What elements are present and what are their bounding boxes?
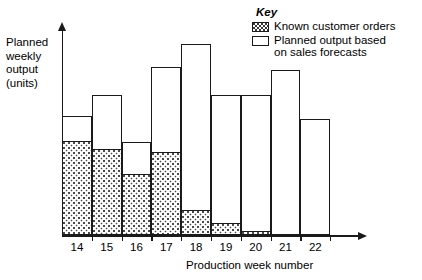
bar-total-week-18 (181, 44, 211, 235)
legend-label-known: Known customer orders (274, 20, 395, 33)
bar-known-week-15 (92, 149, 122, 235)
x-axis-tick-label-14: 14 (62, 241, 92, 253)
legend-label-planned-line-2: on sales forecasts (274, 46, 386, 59)
legend-label-known-line-1: Known customer orders (274, 20, 395, 33)
bar-known-week-18 (181, 210, 211, 235)
x-axis-tick-label-15: 15 (92, 241, 122, 253)
bar-known-week-16 (122, 174, 152, 235)
bar-total-week-19 (211, 95, 241, 235)
x-axis-title: Production week number (186, 259, 313, 271)
legend-label-planned: Planned output based on sales forecasts (274, 34, 386, 59)
bar-known-week-19 (211, 223, 241, 235)
x-axis-tick-label-22: 22 (300, 241, 330, 253)
legend: Key Known customer orders Planned output… (252, 6, 420, 60)
x-axis-tick-label-19: 19 (211, 241, 241, 253)
bar-total-week-20 (241, 95, 271, 235)
bar-known-week-14 (62, 141, 92, 235)
legend-label-planned-line-1: Planned output based (274, 34, 386, 47)
bar-total-week-22 (300, 119, 330, 235)
legend-item-planned-output: Planned output based on sales forecasts (252, 34, 420, 59)
bar-known-week-20 (241, 231, 271, 235)
bar-known-week-17 (151, 152, 181, 235)
bar-chart: Planned weekly output (units) Production… (0, 0, 422, 280)
legend-title: Key (256, 6, 420, 18)
legend-item-known-customer-orders: Known customer orders (252, 20, 420, 33)
bar-total-week-21 (271, 70, 301, 235)
x-axis-tick-label-21: 21 (271, 241, 301, 253)
x-axis-tick-22 (330, 236, 331, 241)
x-axis-tick-label-20: 20 (241, 241, 271, 253)
legend-swatch-planned-icon (252, 36, 269, 46)
x-axis-tick-label-17: 17 (151, 241, 181, 253)
x-axis-tick-label-18: 18 (181, 241, 211, 253)
legend-swatch-known-icon (252, 22, 269, 32)
x-axis-tick-label-16: 16 (122, 241, 152, 253)
